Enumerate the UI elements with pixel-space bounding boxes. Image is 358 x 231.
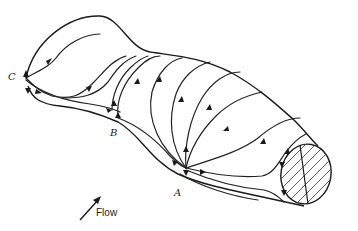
arrow-icon	[115, 112, 121, 118]
arrow-icon	[200, 169, 206, 175]
flow-label: Flow	[96, 207, 118, 218]
end-cross-section	[268, 138, 342, 220]
arrow-icon	[206, 104, 212, 110]
streamlines-mid-rings	[151, 58, 300, 168]
streamline-diagram: C B A Flow	[0, 0, 358, 231]
arrow-icon	[260, 138, 266, 144]
point-label-a: A	[173, 187, 181, 198]
arrow-icon	[183, 146, 189, 152]
point-label-c: C	[8, 71, 16, 82]
point-label-b: B	[109, 127, 117, 138]
arrow-icon	[178, 96, 184, 102]
arrow-icon	[134, 78, 140, 84]
body-outline-bottom	[28, 86, 304, 206]
flow-indicator: Flow	[80, 196, 118, 220]
arrow-icon	[223, 126, 229, 131]
direction-arrows	[23, 58, 290, 196]
arrow-icon	[183, 170, 189, 176]
arrow-icon	[46, 58, 52, 65]
